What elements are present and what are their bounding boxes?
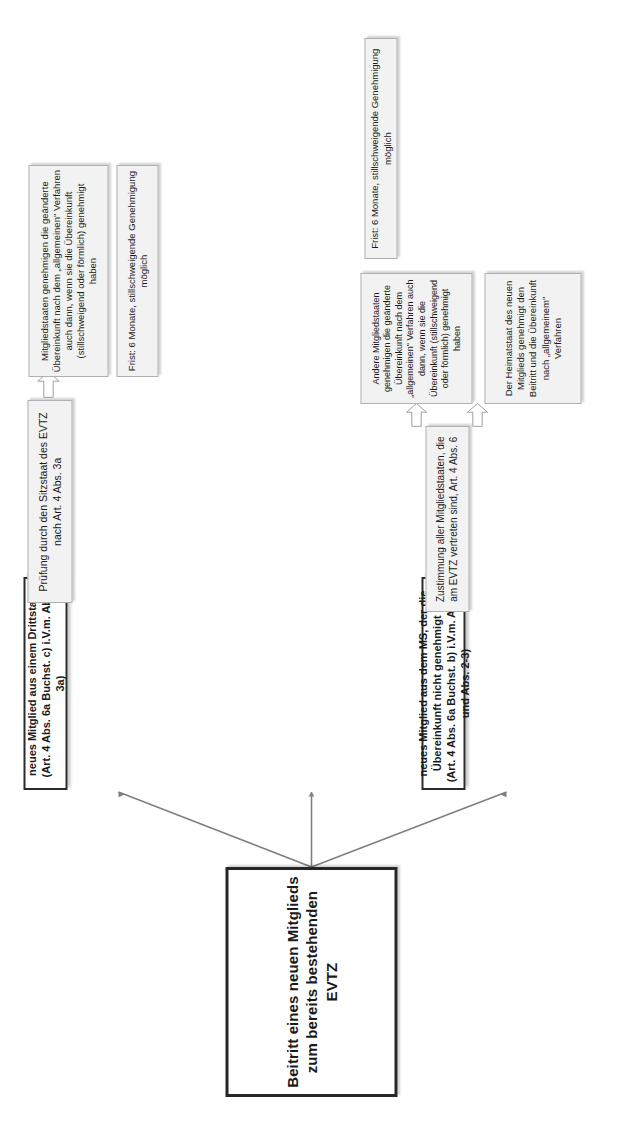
- branch-c-entry-box: neues Mitglied aus einem Drittstaat (Art…: [23, 577, 67, 790]
- branch-b-note-box: Frist: 6 Monate, stillschweigende Genehm…: [364, 38, 397, 259]
- branch-b-step2a-box: Andere Mitgliedstaaten genehmigen die ge…: [360, 273, 472, 404]
- arrow-branch-b-split-upper: [399, 403, 433, 427]
- branch-b-step2b-box: Der Heimatstaat des neuen Mitglieds gene…: [484, 273, 581, 404]
- page-title: Beitritt eines neuen Mitglieds zum berei…: [225, 867, 397, 1097]
- diagram-page: Beitritt eines neuen Mitglieds zum berei…: [0, 0, 623, 1138]
- branch-c-step2-box: Mitgliedstaaten genehmigen die geänderte…: [28, 165, 108, 378]
- branch-b-step1-box: Zustimmung aller Mitgliedstaaten, die am…: [425, 426, 469, 612]
- flowchart-canvas: Beitritt eines neuen Mitglieds zum berei…: [0, 0, 623, 1138]
- branch-c-note-box: Frist: 6 Monate, stillschweigende Genehm…: [116, 165, 158, 378]
- arrow-branch-b-split-lower: [460, 403, 494, 427]
- branch-c-step1-box: Prüfung durch den Sitzstaat des EVTZ nac…: [27, 400, 72, 603]
